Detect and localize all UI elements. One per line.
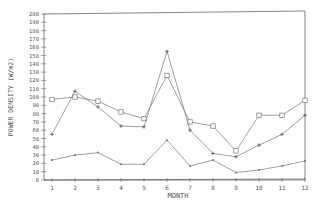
dot-marker [74,154,76,156]
x-tick-label: 6 [165,184,169,191]
dot-marker [304,160,306,162]
square-marker [211,124,215,128]
dot-marker [281,165,283,167]
y-tick-label: 10 [32,169,39,175]
y-tick-label: 20 [32,160,39,166]
dot-marker [235,172,237,174]
dot-marker [51,159,53,161]
y-tick-label: 50 [32,136,39,142]
x-tick-label: 1 [50,184,54,191]
x-tick-label: 2 [73,184,77,191]
y-tick-label: 120 [29,77,39,83]
series-line [52,51,305,156]
x-tick-label: 8 [211,184,215,191]
square-marker [234,149,238,153]
x-tick-label: 4 [119,184,123,191]
x-tick-label: 7 [188,184,192,191]
plus-marker [165,50,169,54]
plus-marker [234,155,238,159]
dot-marker [212,159,214,161]
square-marker [50,97,54,101]
square-marker [257,113,261,117]
dot-marker [258,169,260,171]
y-tick-label: 30 [32,152,39,158]
dot-marker [143,163,145,165]
y-tick-label: 130 [29,69,39,75]
square-marker [142,116,146,120]
dot-marker [166,139,168,141]
y-tick-label: 70 [32,119,39,125]
dot-marker [120,163,122,165]
y-tick-label: 140 [29,61,39,67]
x-tick-label: 5 [142,184,146,191]
x-tick-label: 3 [96,184,100,191]
square-marker [119,110,123,114]
plot-frame [44,11,305,180]
y-tick-label: 160 [29,44,39,50]
series-line [52,140,305,172]
x-tick-label: 11 [278,184,286,191]
plot-border [44,11,305,180]
dot-marker [189,165,191,167]
power-density-chart: 0102030405060708090100110120130140150160… [0,0,316,206]
x-tick-label: 9 [234,184,238,191]
plus-marker [142,125,146,129]
y-tick-label: 80 [32,111,39,117]
series-line [52,75,305,151]
y-tick-label: 170 [29,36,39,42]
y-tick-label: 190 [29,19,39,25]
y-tick-label: 100 [29,94,39,100]
series-2 [50,50,307,159]
y-tick-label: 60 [32,127,39,133]
dot-marker [97,152,99,154]
x-axis-label: MONTH [167,192,188,200]
y-tick-label: 90 [32,102,39,108]
plus-marker [50,133,54,137]
y-tick-label: 40 [32,144,39,150]
square-marker [73,95,77,99]
series-3 [51,139,306,173]
y-tick-label: 110 [29,86,39,92]
y-tick-label: 200 [29,11,39,17]
square-marker [188,120,192,124]
data-series [50,50,307,174]
square-marker [165,73,169,77]
x-tick-label: 10 [255,184,263,191]
square-marker [280,113,284,117]
y-axis-label: POWER DENSITY (W/m2) [7,58,15,136]
square-marker [96,99,100,103]
y-tick-label: 150 [29,53,39,59]
plus-marker [257,143,261,147]
series-1 [50,73,307,153]
y-tick-label: 180 [29,28,39,34]
y-axis: 0102030405060708090100110120130140150160… [29,11,46,183]
square-marker [303,98,307,102]
y-tick-label: 0 [36,177,39,183]
x-tick-label: 12 [301,184,309,191]
